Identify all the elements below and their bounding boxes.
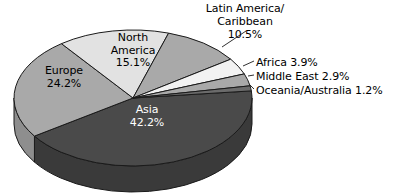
leader-africa [243, 61, 254, 66]
slice-label-latin-america-caribbean: Latin America/ Caribbean 10.5% [186, 3, 304, 42]
leader-mideast [248, 75, 254, 76]
slice-label-north-america: North America 15.1% [96, 32, 170, 70]
slice-label-europe: Europe 24.2% [26, 65, 102, 90]
pie-chart: North America 15.1% Europe 24.2% Asia 42… [0, 0, 401, 193]
slice-label-africa: Africa 3.9% [256, 57, 318, 70]
slice-label-oceania-australia: Oceania/Australia 1.2% [256, 85, 383, 98]
slice-label-asia: Asia 42.2% [108, 104, 186, 129]
slice-label-middle-east: Middle East 2.9% [256, 71, 349, 84]
